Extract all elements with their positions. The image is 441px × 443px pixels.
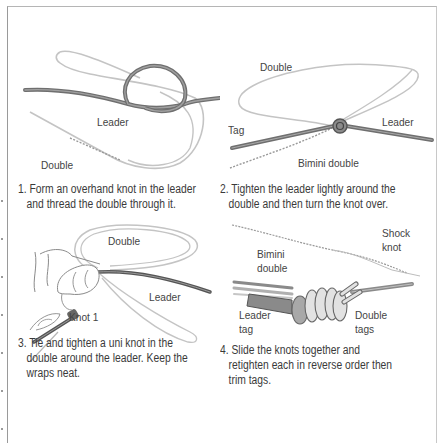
step-4-caption-line1: Slide the knots together and [231, 343, 360, 357]
step-3-leader-label: Leader [149, 291, 181, 304]
step-4-shock-label-line2: knot [382, 241, 401, 254]
step-2-panel: Double Tag Leader Bimini double 2. Tight… [222, 8, 432, 223]
step-4-double-tags-label-line1: Double [355, 309, 387, 322]
step-3-caption-line2: double around the leader. Keep the [18, 351, 203, 366]
step-3-caption-line1: Tie and tighten a uni knot in the [29, 336, 173, 350]
step-2-number: 2. [220, 182, 229, 197]
step-2-bimini-double-label: Bimini double [298, 157, 359, 170]
step-1-panel: Leader Double 1. Form an overhand knot i… [10, 8, 220, 223]
step-3-panel: Double Leader Knot 1 3. Tie and tighten … [10, 222, 220, 437]
step-2-double-label: Double [260, 61, 292, 74]
step-1-caption: 1. Form an overhand knot in the leader a… [18, 182, 203, 212]
step-3-number: 3. [18, 336, 27, 351]
margin-dots [1, 200, 4, 440]
step-4-panel: Bimini double Shock knot Leader tag Doub… [222, 222, 432, 437]
step-4-shock-label-line1: Shock [382, 227, 410, 240]
step-3-caption-line3: wraps neat. [18, 366, 203, 381]
step-4-leader-tag-label-line1: Leader [239, 309, 271, 322]
step-3-double-label: Double [108, 235, 140, 248]
step-1-number: 1. [18, 182, 27, 197]
step-4-caption-line3: trim tags. [220, 373, 405, 388]
step-4-double-tags-label-line2: tags [355, 323, 374, 336]
step-2-illustration [222, 8, 440, 178]
step-3-knot1-label: Knot 1 [69, 311, 98, 324]
step-4-number: 4. [220, 343, 229, 358]
step-1-double-label: Double [41, 159, 73, 172]
step-4-caption-line2: retighten each in reverse order then [220, 358, 405, 373]
step-1-caption-line2: and thread the double through it. [18, 197, 203, 212]
step-4-caption: 4. Slide the knots together and retighte… [220, 343, 405, 388]
step-2-caption-line2: double and then turn the knot over. [220, 197, 405, 212]
step-4-leader-tag-label-line2: tag [239, 323, 253, 336]
step-2-caption: 2. Tighten the leader lightly around the… [220, 182, 405, 212]
step-1-illustration [10, 8, 220, 178]
step-1-caption-line1: Form an overhand knot in the leader [29, 182, 195, 196]
step-3-caption: 3. Tie and tighten a uni knot in the dou… [18, 336, 203, 381]
step-1-leader-label: Leader [97, 116, 129, 129]
step-4-illustration [222, 222, 438, 362]
step-2-tag-label: Tag [228, 124, 244, 137]
step-4-bimini-label-line1: Bimini [257, 248, 285, 261]
step-2-leader-label: Leader [382, 116, 414, 129]
step-2-caption-line1: Tighten the leader lightly around the [231, 182, 395, 196]
step-4-bimini-label-line2: double [257, 262, 287, 275]
